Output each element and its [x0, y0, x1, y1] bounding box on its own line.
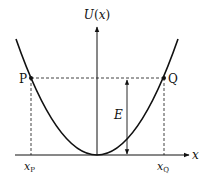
x-q-label: xQ: [157, 160, 169, 174]
x-p-label: xP: [24, 160, 35, 174]
point-p-label: P: [19, 72, 27, 86]
point-q-dot: [162, 76, 166, 80]
point-q-label: Q: [168, 72, 178, 86]
y-axis-label: U(x): [84, 8, 110, 22]
potential-energy-diagram: U(x) x P Q E xP xQ: [0, 0, 209, 180]
x-axis-label: x: [192, 148, 199, 162]
point-p-dot: [29, 76, 33, 80]
energy-label: E: [113, 108, 123, 122]
